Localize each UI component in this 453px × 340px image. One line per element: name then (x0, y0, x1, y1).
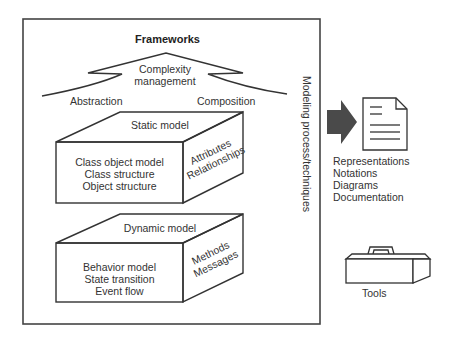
static-model-label: Static model (110, 119, 210, 131)
tools-label: Tools (362, 287, 387, 299)
static-front-line-2: Class structure (56, 168, 183, 180)
output-line-1: Representations (333, 155, 409, 167)
dynamic-front-line-3: Event flow (56, 285, 183, 297)
frameworks-title: Frameworks (120, 33, 215, 45)
modeling-process-label: Modeling process/techniques (301, 68, 313, 220)
output-line-4: Documentation (333, 191, 404, 203)
abstraction-label: Abstraction (70, 95, 123, 107)
document-icon (363, 98, 407, 150)
output-line-3: Diagrams (333, 179, 378, 191)
composition-label: Composition (197, 95, 255, 107)
complexity-label-line2: management (115, 75, 215, 87)
static-front-line-3: Object structure (56, 180, 183, 192)
output-line-2: Notations (333, 167, 377, 179)
output-arrow-icon (327, 100, 357, 144)
dynamic-front-line-1: Behavior model (56, 261, 183, 273)
static-front-line-1: Class object model (56, 156, 183, 168)
dynamic-model-label: Dynamic model (110, 222, 210, 234)
toolbox-icon (346, 247, 430, 283)
complexity-label-line1: Complexity (115, 63, 215, 75)
dynamic-front-line-2: State transition (56, 273, 183, 285)
